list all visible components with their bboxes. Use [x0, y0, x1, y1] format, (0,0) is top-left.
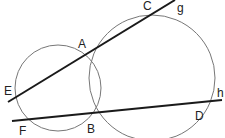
line-h: [12, 100, 222, 121]
geometry-diagram: A B C D E F g h: [0, 0, 225, 138]
point-label-d: D: [195, 110, 204, 122]
diagram-canvas: [0, 0, 225, 138]
line-label-g: g: [177, 2, 184, 14]
point-label-e: E: [4, 85, 12, 97]
point-label-a: A: [78, 38, 86, 50]
point-label-c: C: [143, 0, 152, 12]
line-label-h: h: [217, 87, 224, 99]
small-circle: [15, 45, 101, 131]
line-g: [8, 0, 175, 102]
point-label-f: F: [19, 125, 26, 137]
point-label-b: B: [87, 123, 95, 135]
